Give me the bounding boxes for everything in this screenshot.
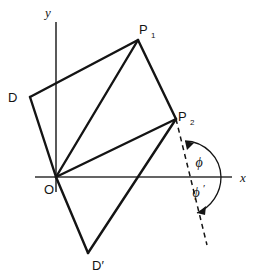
- point-dprime-label: D′: [92, 258, 104, 273]
- point-p2-label: P: [178, 109, 187, 124]
- geometry-figure: y x O P 1 P 2 D D′ ϕ ϕ ′: [0, 0, 263, 276]
- angle-phi-prime-mark: ′: [203, 182, 205, 194]
- diagram-canvas: y x O P 1 P 2 D D′ ϕ ϕ ′: [0, 0, 263, 276]
- origin-label: O: [44, 182, 54, 197]
- x-axis-label: x: [239, 170, 246, 185]
- point-d-label: D: [8, 90, 17, 105]
- point-p1-label: P: [139, 22, 148, 37]
- figure-background: [0, 0, 263, 276]
- point-p1-subscript: 1: [151, 31, 156, 40]
- angle-phi-label: ϕ: [195, 155, 202, 170]
- angle-phi-prime-label: ϕ: [192, 185, 199, 200]
- point-p2-subscript: 2: [190, 118, 195, 127]
- y-axis-label: y: [43, 5, 51, 20]
